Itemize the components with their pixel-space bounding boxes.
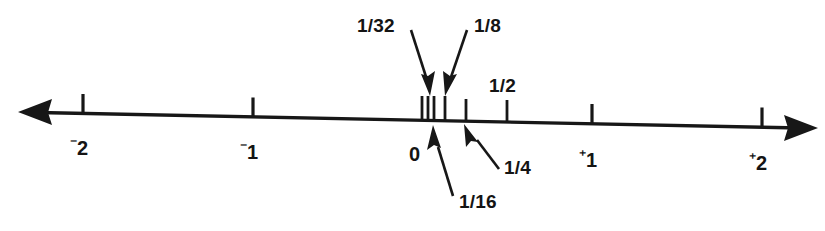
leader-line-1-32 bbox=[411, 30, 428, 83]
leader-arrow-1-8 bbox=[443, 71, 457, 96]
annotation-label-1-32: 1/32 bbox=[357, 16, 395, 35]
axis-label-neg-2: ⁻2 bbox=[70, 136, 88, 158]
annotation-label-1-8: 1/8 bbox=[474, 16, 501, 35]
leader-arrow-1-4 bbox=[464, 124, 478, 147]
axis-line bbox=[38, 113, 800, 129]
leader-line-1-16 bbox=[438, 147, 453, 196]
minus-sign-icon: ⁻ bbox=[240, 139, 247, 155]
axis-label-neg-2-digit: 2 bbox=[77, 137, 88, 159]
axis-label-pos-1-digit: 1 bbox=[586, 149, 597, 171]
axis-label-neg-1: ⁻1 bbox=[240, 140, 258, 162]
annotation-label-1-4: 1/4 bbox=[504, 158, 531, 177]
leader-line-1-4 bbox=[477, 140, 499, 169]
leader-line-1-8 bbox=[449, 30, 467, 83]
right-arrowhead-icon bbox=[784, 115, 818, 141]
number-line-graphic bbox=[0, 0, 825, 231]
annotation-label-1-16: 1/16 bbox=[459, 192, 497, 211]
annotation-label-1-2: 1/2 bbox=[489, 76, 516, 95]
left-arrowhead-icon bbox=[18, 99, 52, 125]
plus-sign-icon: ⁺ bbox=[749, 150, 756, 166]
axis-label-pos-2-digit: 2 bbox=[756, 152, 767, 174]
leader-arrow-1-32 bbox=[421, 71, 435, 96]
axis-label-pos-1: ⁺1 bbox=[579, 148, 597, 170]
minus-sign-icon: ⁻ bbox=[70, 135, 77, 151]
axis-label-neg-1-digit: 1 bbox=[247, 141, 258, 163]
plus-sign-icon: ⁺ bbox=[579, 147, 586, 163]
axis-label-zero: 0 bbox=[409, 144, 420, 164]
number-line-figure: ⁻2 ⁻1 0 ⁺1 ⁺2 1/32 1/8 1/2 1/4 1/16 bbox=[0, 0, 825, 231]
leader-arrow-1-16 bbox=[427, 125, 441, 150]
axis-label-zero-digit: 0 bbox=[409, 143, 420, 165]
axis-label-pos-2: ⁺2 bbox=[749, 151, 767, 173]
